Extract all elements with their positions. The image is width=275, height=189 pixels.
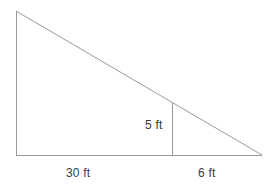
triangle-hypotenuse (16, 11, 262, 155)
triangle-diagram: 5 ft 30 ft 6 ft (0, 0, 275, 189)
height-label-5ft: 5 ft (145, 119, 162, 131)
base-label-30ft: 30 ft (66, 167, 90, 179)
base-label-6ft: 6 ft (198, 167, 215, 179)
triangle-figure-svg (0, 0, 275, 189)
